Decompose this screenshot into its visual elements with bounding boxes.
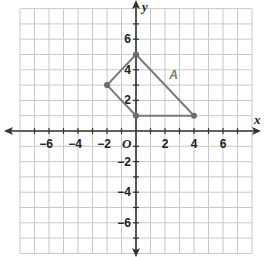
y-tick-label: −4 bbox=[117, 185, 131, 199]
vertex-point bbox=[191, 113, 197, 119]
x-axis-label: x bbox=[253, 112, 261, 127]
figure-label: A bbox=[168, 68, 178, 82]
origin-label: O bbox=[122, 136, 132, 151]
x-tick-label: −4 bbox=[68, 137, 82, 151]
x-tick-label: 4 bbox=[191, 137, 198, 151]
y-tick-label: −6 bbox=[117, 216, 131, 230]
x-tick-label: −2 bbox=[97, 137, 111, 151]
axes bbox=[4, 0, 261, 257]
vertex-point bbox=[104, 82, 110, 88]
y-tick-label: −2 bbox=[117, 155, 131, 169]
coordinate-plane: −6−4−2246642−2−4−6 x y O A bbox=[0, 0, 265, 257]
y-tick-label: 6 bbox=[124, 32, 131, 46]
x-tick-label: 6 bbox=[220, 137, 227, 151]
y-axis-label: y bbox=[140, 0, 148, 14]
vertex-point bbox=[133, 52, 139, 58]
vertex-point bbox=[133, 113, 139, 119]
x-tick-label: 2 bbox=[162, 137, 169, 151]
x-tick-label: −6 bbox=[39, 137, 53, 151]
